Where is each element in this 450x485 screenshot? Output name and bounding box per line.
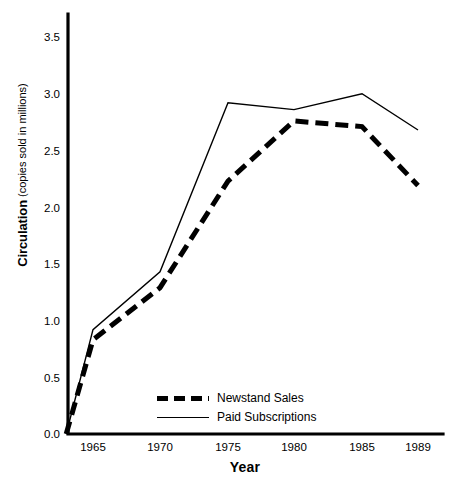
circulation-line-chart: Circulation (copies sold in millions) 3.… (0, 0, 450, 485)
x-tick-label: 1965 (65, 441, 121, 454)
axis-lines (68, 14, 443, 434)
x-tick-label: 1975 (200, 441, 256, 454)
legend-label: Newstand Sales (217, 391, 304, 405)
legend-label: Paid Subscriptions (217, 410, 316, 424)
x-tick-label: 1985 (334, 441, 390, 454)
x-tick-label: 1970 (132, 441, 188, 454)
x-axis-title: Year (70, 459, 420, 475)
legend-swatch-solid-icon (157, 410, 209, 424)
x-tick-label: 1980 (266, 441, 322, 454)
chart-legend: Newstand Sales Paid Subscriptions (157, 388, 387, 426)
legend-item-newstand-sales: Newstand Sales (157, 388, 387, 407)
series-line-paid-subscriptions (66, 94, 418, 434)
legend-swatch-dashed-icon (157, 391, 209, 405)
x-tick-label: 1989 (390, 441, 446, 454)
legend-item-paid-subscriptions: Paid Subscriptions (157, 407, 387, 426)
